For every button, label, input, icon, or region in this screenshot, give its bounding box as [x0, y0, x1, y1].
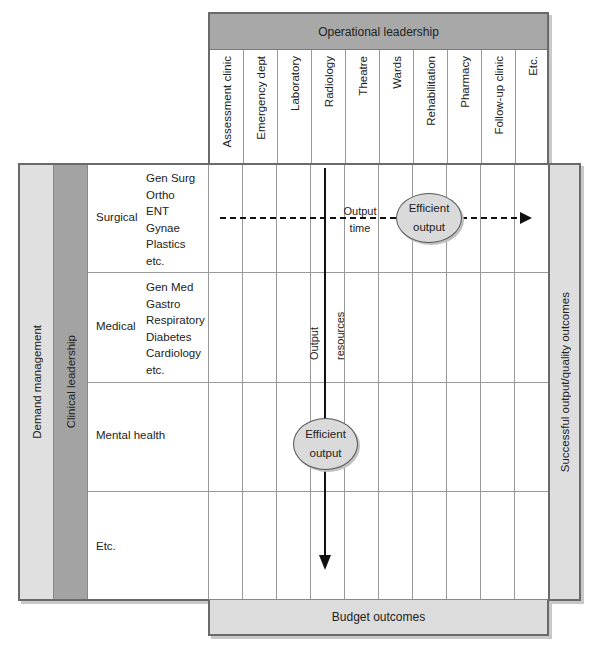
output-time-label-line2: time [343, 220, 377, 237]
vertical-resources-arrow-icon [319, 168, 331, 570]
flow-arrows [0, 0, 600, 653]
output-resources-label-line1: Output [308, 300, 320, 360]
ellipse-text: Efficient [305, 425, 346, 444]
efficient-output-ellipse-mental-health: Efficient output [293, 418, 358, 470]
output-time-label-line1: Output [343, 203, 377, 220]
output-time-label: Output time [343, 203, 377, 237]
efficient-output-ellipse-surgical: Efficient output [396, 193, 462, 243]
ellipse-text: output [310, 444, 342, 463]
ellipse-text: Efficient [409, 199, 450, 218]
ellipse-text: output [413, 218, 445, 237]
output-resources-label-line2: resources [334, 300, 346, 360]
output-resources-label: Output resources [308, 300, 346, 360]
